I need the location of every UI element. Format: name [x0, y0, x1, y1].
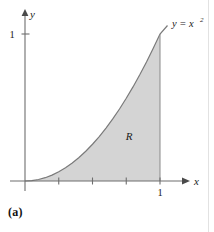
- curve-label-exponent: 2: [200, 16, 204, 24]
- figure-panel-a: y x 1 1 y = x 2 R (a): [0, 0, 214, 232]
- x-axis-arrowhead: [182, 178, 190, 185]
- y-axis-label: y: [29, 8, 35, 20]
- panel-caption: (a): [8, 205, 23, 220]
- region-label-r: R: [125, 130, 133, 142]
- y-tick-label-one: 1: [9, 29, 14, 40]
- x-axis-label: x: [193, 175, 199, 187]
- parabola-area-plot: y x 1 1 y = x 2 R: [0, 0, 214, 232]
- x-tick-label-one: 1: [157, 187, 162, 198]
- shaded-region-r: [25, 34, 160, 181]
- y-axis-arrowhead: [22, 9, 29, 16]
- curve-label-base: y = x: [171, 18, 194, 29]
